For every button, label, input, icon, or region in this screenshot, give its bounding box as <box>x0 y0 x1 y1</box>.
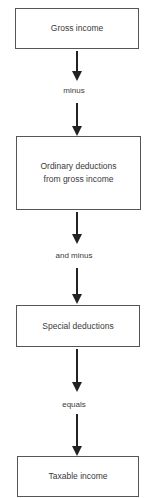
down-arrow-icon <box>72 103 82 136</box>
ordinary-deductions-line-2: from gross income <box>40 173 116 186</box>
down-arrow-icon <box>72 414 82 456</box>
taxable-income-label: Taxable income <box>48 470 107 483</box>
down-arrow-icon <box>72 349 82 392</box>
ordinary-deductions-box: Ordinary deductions from gross income <box>16 136 141 210</box>
connector-label-equals: equals <box>0 400 148 410</box>
gross-income-label: Gross income <box>51 22 103 35</box>
connector-label-minus: minus <box>0 86 148 96</box>
special-deductions-label: Special deductions <box>42 320 113 333</box>
down-arrow-icon <box>72 212 82 244</box>
gross-income-box: Gross income <box>15 8 139 49</box>
ordinary-deductions-line-1: Ordinary deductions <box>40 160 116 173</box>
down-arrow-icon <box>72 268 82 304</box>
connector-label-and-minus: and minus <box>0 251 148 261</box>
down-arrow-icon <box>72 51 82 81</box>
special-deductions-box: Special deductions <box>16 305 140 347</box>
taxable-income-box: Taxable income <box>17 456 139 497</box>
